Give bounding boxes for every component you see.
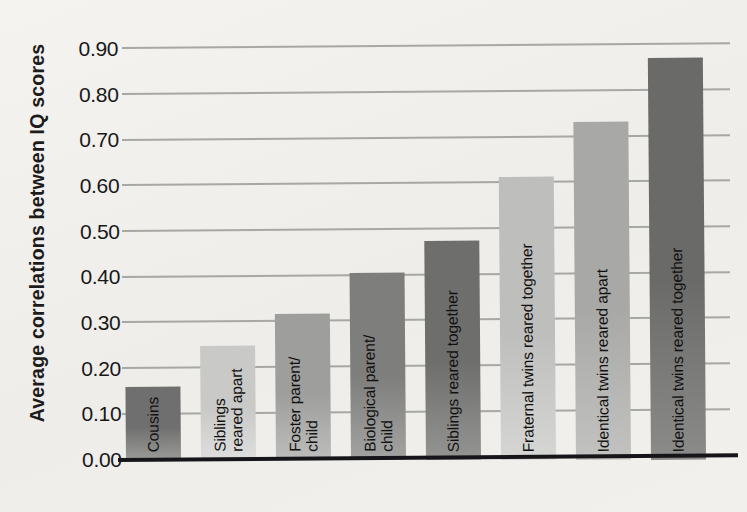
bar-cousins: Cousins — [125, 386, 181, 460]
bar-siblings-reared-apart: Siblings reared apart — [200, 345, 256, 460]
y-tick-0.50: 0.50 — [46, 220, 120, 244]
bar-series: CousinsSiblings reared apartFoster paren… — [122, 26, 730, 460]
bar-fraternal-twins-reared-together: Fraternal twins reared together — [499, 176, 556, 460]
bar-label-6: Fraternal twins reared together — [519, 243, 537, 452]
y-tick-0.40: 0.40 — [46, 265, 120, 289]
y-axis-tick-labels: 0.000.100.200.300.400.500.600.700.800.90 — [34, 26, 118, 460]
bar-label-8: Identical twins reared together — [669, 247, 687, 452]
bar-identical-twins-reared-apart: Identical twins reared apart — [573, 122, 631, 460]
bar-siblings-reared-together: Siblings reared together — [424, 240, 481, 460]
y-tick-0.70: 0.70 — [45, 128, 119, 152]
bar-label-2: Siblings reared apart — [211, 368, 245, 452]
y-tick-0.80: 0.80 — [45, 83, 119, 107]
bar-foster-parent-child: Foster parent/ child — [275, 313, 331, 460]
y-tick-0.30: 0.30 — [47, 311, 121, 335]
bar-label-4: Biological parent/ child — [361, 335, 395, 452]
bar-label-1: Cousins — [145, 396, 162, 451]
y-tick-0.60: 0.60 — [45, 174, 119, 198]
y-tick-0.90: 0.90 — [44, 37, 118, 61]
y-tick-0.10: 0.10 — [47, 402, 121, 426]
bar-label-3: Foster parent/ child — [286, 357, 320, 452]
iq-correlation-bar-chart: Average correlations between IQ scores 0… — [0, 0, 747, 512]
bar-biological-parent-child: Biological parent/ child — [350, 272, 406, 460]
y-tick-0.00: 0.00 — [48, 448, 122, 472]
plot-area: CousinsSiblings reared apartFoster paren… — [122, 26, 730, 460]
bar-label-7: Identical twins reared apart — [594, 268, 612, 451]
bar-label-5: Siblings reared together — [444, 290, 462, 452]
y-tick-0.20: 0.20 — [47, 357, 121, 381]
bar-identical-twins-reared-together: Identical twins reared together — [648, 58, 706, 460]
